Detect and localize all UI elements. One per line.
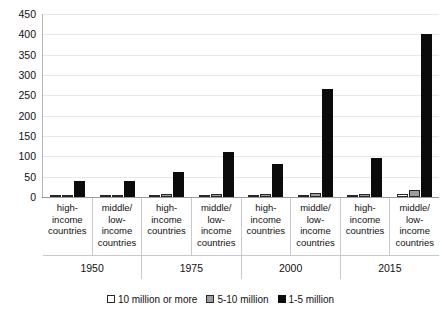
legend-label: 10 million or more xyxy=(118,294,197,305)
bar xyxy=(421,34,432,197)
bar-chart: 450400350300250200150100500 high- income… xyxy=(0,0,441,317)
year-group xyxy=(142,0,241,197)
legend-label: 1-5 million xyxy=(289,294,335,305)
legend-item[interactable]: 1-5 million xyxy=(278,294,335,305)
year-cell: high- income countriesmiddle/ low- incom… xyxy=(142,198,241,255)
y-axis-tick-label: 100 xyxy=(18,151,36,161)
category-axis-label: middle/ low- income countries xyxy=(197,202,236,248)
category-axis-cell: high- income countries xyxy=(341,198,391,255)
y-axis: 450400350300250200150100500 xyxy=(0,0,40,200)
bar xyxy=(371,158,382,197)
year-cell: high- income countriesmiddle/ low- incom… xyxy=(242,198,341,255)
bars-container xyxy=(43,0,439,197)
category-axis-label: high- income countries xyxy=(346,202,385,237)
y-axis-tick-label: 200 xyxy=(18,111,36,121)
bar xyxy=(223,152,234,197)
category-bar-group xyxy=(93,0,143,197)
bar xyxy=(173,172,184,197)
y-axis-tick-label: 50 xyxy=(24,172,36,182)
year-group xyxy=(340,0,439,197)
legend-item[interactable]: 10 million or more xyxy=(107,294,197,305)
category-axis-cell: middle/ low- income countries xyxy=(192,198,241,255)
y-axis-tick-label: 350 xyxy=(18,50,36,60)
category-axis-cell: high- income countries xyxy=(242,198,292,255)
year-cell: high- income countriesmiddle/ low- incom… xyxy=(341,198,439,255)
legend-label: 5-10 million xyxy=(217,294,268,305)
category-axis-label: middle/ low- income countries xyxy=(98,202,137,248)
bar xyxy=(124,181,135,197)
category-axis-cell: middle/ low- income countries xyxy=(390,198,439,255)
y-axis-tick-label: 250 xyxy=(18,90,36,100)
bar xyxy=(409,190,420,197)
y-axis-tick-label: 0 xyxy=(30,192,36,202)
category-bar-group xyxy=(142,0,192,197)
year-axis-label: 2000 xyxy=(242,256,341,279)
legend-swatch-icon xyxy=(107,295,115,303)
year-axis-label: 2015 xyxy=(341,256,439,279)
legend-swatch-icon xyxy=(206,295,214,303)
category-bar-group xyxy=(192,0,242,197)
category-axis-label: high- income countries xyxy=(48,202,87,237)
year-axis-label: 1975 xyxy=(142,256,241,279)
category-axis-label: high- income countries xyxy=(247,202,286,237)
year-group xyxy=(241,0,340,197)
year-group xyxy=(43,0,142,197)
category-axis-cell: high- income countries xyxy=(43,198,93,255)
category-axis-cell: middle/ low- income countries xyxy=(291,198,340,255)
y-axis-tick-label: 300 xyxy=(18,70,36,80)
category-axis-label: middle/ low- income countries xyxy=(395,202,434,248)
year-cell: high- income countriesmiddle/ low- incom… xyxy=(43,198,142,255)
bar xyxy=(272,164,283,197)
y-axis-tick-label: 150 xyxy=(18,131,36,141)
y-axis-tick-label: 450 xyxy=(18,9,36,19)
y-axis-tick-label: 400 xyxy=(18,29,36,39)
category-bar-group xyxy=(390,0,440,197)
category-axis-label: middle/ low- income countries xyxy=(296,202,335,248)
category-bar-group xyxy=(241,0,291,197)
category-bar-group xyxy=(43,0,93,197)
chart-legend: 10 million or more5-10 million1-5 millio… xyxy=(0,288,441,310)
category-axis-label: high- income countries xyxy=(147,202,186,237)
bar xyxy=(322,89,333,197)
plot-area: 450400350300250200150100500 xyxy=(0,0,441,200)
category-axis-cell: high- income countries xyxy=(142,198,192,255)
bar xyxy=(74,181,85,197)
year-axis: 1950197520002015 xyxy=(43,255,439,279)
category-bar-group xyxy=(291,0,341,197)
year-axis-label: 1950 xyxy=(43,256,142,279)
legend-swatch-icon xyxy=(278,295,286,303)
category-bar-group xyxy=(340,0,390,197)
category-axis: high- income countriesmiddle/ low- incom… xyxy=(43,197,439,255)
category-axis-cell: middle/ low- income countries xyxy=(93,198,142,255)
legend-item[interactable]: 5-10 million xyxy=(206,294,268,305)
